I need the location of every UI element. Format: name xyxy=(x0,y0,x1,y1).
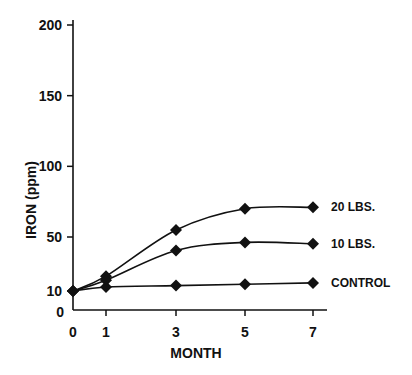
diamond-marker-icon xyxy=(307,238,319,250)
x-tick-label: 1 xyxy=(102,324,110,340)
x-tick-label: 0 xyxy=(69,324,77,340)
y-tick-label: 0 xyxy=(56,304,64,320)
diamond-marker-icon xyxy=(239,203,251,215)
y-tick-label: 100 xyxy=(39,158,63,174)
series-label: 10 LBS. xyxy=(331,237,375,251)
x-tick-label: 5 xyxy=(241,324,249,340)
data-series: 20 LBS.10 LBS.CONTROL xyxy=(67,200,390,297)
diamond-marker-icon xyxy=(170,224,182,236)
diamond-marker-icon xyxy=(239,278,251,290)
x-tick-label: 7 xyxy=(309,324,317,340)
series-20-lbs: 20 LBS. xyxy=(67,200,375,297)
diamond-marker-icon xyxy=(100,281,112,293)
x-axis-ticks: 01357 xyxy=(69,310,317,340)
chart-axes xyxy=(73,20,327,310)
series-10-lbs: 10 LBS. xyxy=(67,236,375,297)
diamond-marker-icon xyxy=(170,280,182,292)
series-label: 20 LBS. xyxy=(331,200,375,214)
y-tick-label: 10 xyxy=(46,283,62,299)
diamond-marker-icon xyxy=(239,236,251,248)
diamond-marker-icon xyxy=(307,201,319,213)
diamond-marker-icon xyxy=(170,245,182,257)
diamond-marker-icon xyxy=(307,277,319,289)
y-axis-ticks: 01050100150200 xyxy=(39,17,73,320)
x-axis-title: MONTH xyxy=(170,345,221,361)
series-label: CONTROL xyxy=(331,276,390,290)
line-chart: 01050100150200 01357 IRON (ppm) MONTH 20… xyxy=(0,0,412,375)
x-tick-label: 3 xyxy=(172,324,180,340)
series-control: CONTROL xyxy=(67,276,390,297)
y-tick-label: 200 xyxy=(39,17,63,33)
y-tick-label: 150 xyxy=(39,88,63,104)
diamond-marker-icon xyxy=(67,285,79,297)
y-tick-label: 50 xyxy=(46,229,62,245)
y-axis-title: IRON (ppm) xyxy=(23,161,39,239)
